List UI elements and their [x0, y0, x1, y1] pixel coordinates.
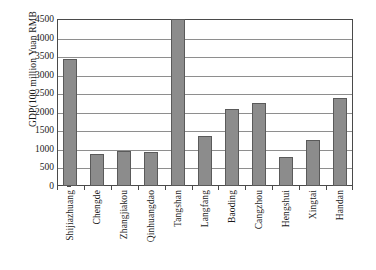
bar[interactable]	[225, 109, 239, 186]
bar[interactable]	[252, 103, 266, 186]
x-label-holder: Zhangjiakou	[111, 190, 137, 268]
y-tick-label: 0	[49, 182, 54, 191]
bar[interactable]	[198, 136, 212, 186]
x-tick-label: Chengde	[92, 190, 102, 224]
y-tick-label: 4000	[35, 33, 54, 42]
bar-slot	[165, 19, 192, 186]
bar[interactable]	[117, 151, 131, 186]
x-tick-label: Handan	[335, 190, 345, 220]
x-tick-label: Cangzhou	[254, 190, 264, 229]
x-label-holder: Cangzhou	[246, 190, 272, 268]
x-label-holder: Shijiazhuang	[57, 190, 83, 268]
x-tick-label: Qinhuangdao	[146, 190, 156, 242]
x-label-holder: Qinhuangdao	[138, 190, 164, 268]
x-tick-label: Hengshui	[281, 190, 291, 227]
bar-series	[57, 19, 353, 186]
bar[interactable]	[171, 19, 185, 186]
bar-slot	[218, 19, 245, 186]
bar-slot	[192, 19, 219, 186]
bar[interactable]	[279, 157, 293, 186]
x-label-holder: Xingtai	[300, 190, 326, 268]
x-label-holder: Chengde	[84, 190, 110, 268]
x-tick-label: Baoding	[227, 190, 237, 223]
y-tick-label: 3500	[35, 52, 54, 61]
y-tick-label: 1500	[35, 126, 54, 135]
x-tick-label: Zhangjiakou	[119, 190, 129, 239]
bar-slot	[272, 19, 299, 186]
x-label-holder: Hengshui	[273, 190, 299, 268]
y-axis-tick-labels: 450040003500300025002000150010005000	[14, 19, 54, 186]
bar-chart: GDP(100 million Yuan RMB 450040003500300…	[0, 0, 376, 270]
bar-slot	[245, 19, 272, 186]
bar-slot	[326, 19, 353, 186]
x-tick-label: Shijiazhuang	[65, 190, 75, 241]
bar-slot	[111, 19, 138, 186]
x-label-holder: Tangshan	[165, 190, 191, 268]
bar[interactable]	[144, 152, 158, 186]
x-tick-label: Xingtai	[308, 190, 318, 219]
y-tick-label: 3000	[35, 70, 54, 79]
bar[interactable]	[63, 59, 77, 186]
bar[interactable]	[90, 154, 104, 186]
x-label-holder: Langfang	[192, 190, 218, 268]
x-tick-label: Langfang	[200, 190, 210, 227]
bar-slot	[84, 19, 111, 186]
x-tick-label: Tangshan	[173, 190, 183, 227]
bar[interactable]	[333, 98, 347, 186]
bar-slot	[299, 19, 326, 186]
bar-slot	[57, 19, 84, 186]
y-tick-label: 2500	[35, 89, 54, 98]
bar-slot	[138, 19, 165, 186]
y-tick-label: 4500	[35, 15, 54, 24]
y-tick-label: 1000	[35, 144, 54, 153]
bar[interactable]	[306, 140, 320, 186]
x-label-holder: Baoding	[219, 190, 245, 268]
x-label-holder: Handan	[327, 190, 353, 268]
y-tick-label: 500	[40, 163, 54, 172]
x-axis-tick-labels: ShijiazhuangChengdeZhangjiakouQinhuangda…	[57, 190, 353, 268]
y-tick-label: 2000	[35, 107, 54, 116]
